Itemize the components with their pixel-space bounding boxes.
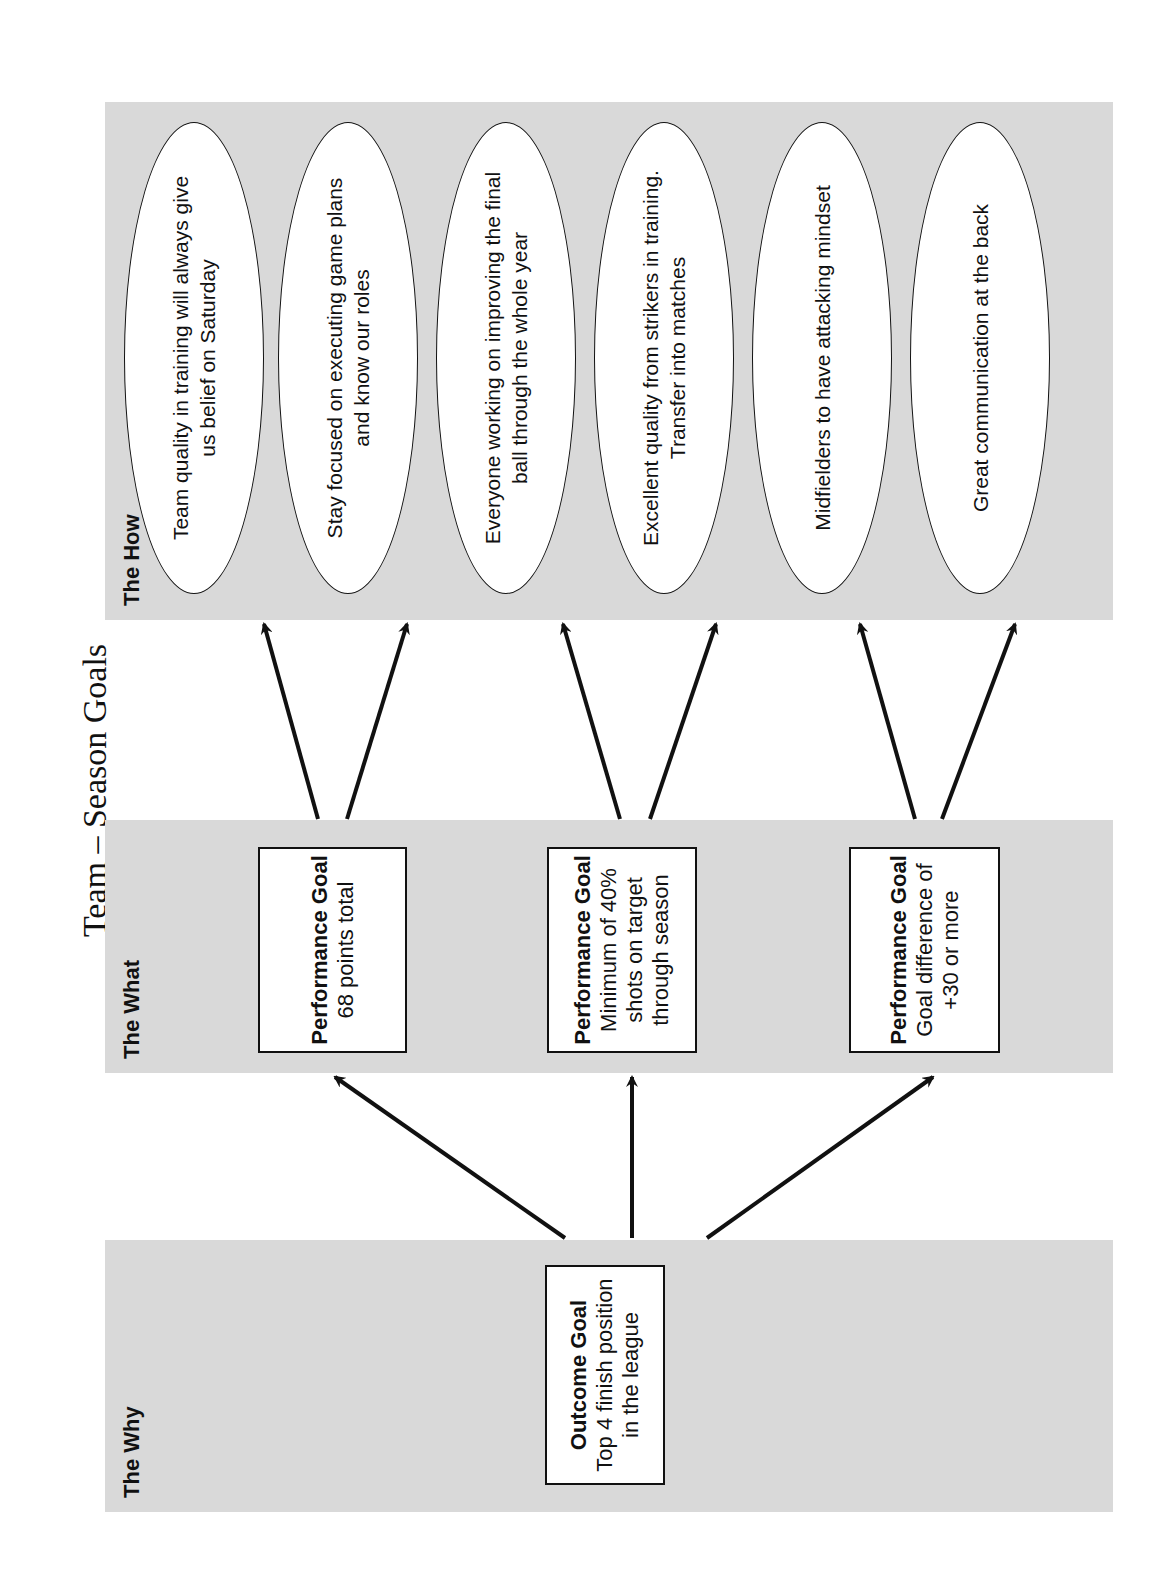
performance-goal-heading: Performance Goal [886,855,912,1045]
arrow-icon [707,1077,933,1238]
outcome-to-performance-arrows [335,1077,933,1238]
how-text: Team quality in training will always giv… [167,163,221,553]
how-text: Excellent quality from strikers in train… [637,163,691,553]
how-ellipse: Everyone working on improving the final … [436,122,576,594]
outcome-goal-heading: Outcome Goal [566,1300,592,1450]
how-ellipse: Midfielders to have attacking mindset [752,122,892,594]
performance-goal-box: Performance Goal Goal difference of +30 … [849,847,1000,1053]
performance-goal-text: Goal difference of +30 or more [912,855,964,1045]
arrow-icon [335,1077,565,1238]
arrow-icon [347,624,407,819]
how-text: Great communication at the back [967,204,994,512]
arrow-icon [860,624,915,819]
how-text: Everyone working on improving the final … [479,163,533,553]
performance-to-how-arrows [264,624,1015,819]
arrow-icon [264,624,318,819]
performance-goal-box: Performance Goal 68 points total [258,847,407,1053]
outcome-goal-box: Outcome Goal Top 4 finish position in th… [545,1265,665,1485]
outcome-goal-text: Top 4 finish position in the league [592,1273,644,1477]
season-goals-diagram: Team – Season Goals The Why The What The… [0,0,1163,1581]
performance-goal-box: Performance Goal Minimum of 40% shots on… [547,847,697,1053]
performance-goal-text: 68 points total [333,882,359,1019]
performance-goal-text: Minimum of 40% shots on target through s… [596,855,674,1045]
arrow-icon [650,624,716,819]
how-ellipse: Great communication at the back [910,122,1050,594]
arrow-icon [942,624,1015,819]
performance-goal-heading: Performance Goal [570,855,596,1045]
how-ellipse: Stay focused on executing game plans and… [278,122,418,594]
how-text: Midfielders to have attacking mindset [809,185,836,531]
how-ellipse: Team quality in training will always giv… [124,122,264,594]
arrow-icon [563,624,620,819]
how-ellipse: Excellent quality from strikers in train… [594,122,734,594]
performance-goal-heading: Performance Goal [307,855,333,1045]
how-text: Stay focused on executing game plans and… [321,163,375,553]
